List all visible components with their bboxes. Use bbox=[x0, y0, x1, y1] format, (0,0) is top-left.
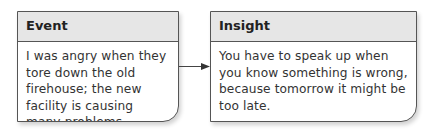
insight-box-title: Insight bbox=[211, 12, 416, 42]
event-box-title: Event bbox=[18, 12, 178, 42]
insight-box-text: You have to speak up when you know somet… bbox=[211, 42, 416, 114]
insight-box: Insight You have to speak up when you kn… bbox=[210, 11, 417, 122]
event-box-text: I was angry when they tore down the old … bbox=[18, 42, 178, 122]
event-box: Event I was angry when they tore down th… bbox=[17, 11, 179, 122]
arrow-right-icon bbox=[179, 62, 210, 71]
